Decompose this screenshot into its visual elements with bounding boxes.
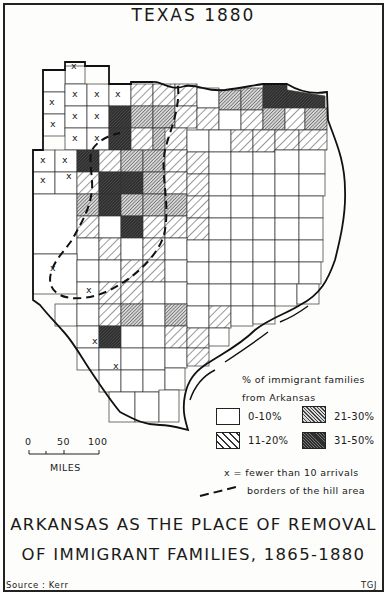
hill-border-legend-line — [200, 486, 240, 496]
legend-label-31-50: 31-50% — [334, 435, 374, 446]
legend-swatch-21-30 — [302, 406, 326, 423]
scale-tick-100: 100 — [88, 436, 108, 447]
main-title-line1: ARKANSAS AS THE PLACE OF REMOVAL — [0, 515, 387, 534]
x-marker: x — [40, 154, 46, 165]
legend-swatch-31-50 — [302, 432, 326, 449]
x-marker: x — [94, 132, 100, 143]
scale-unit: MILES — [50, 462, 81, 473]
x-marker: x — [92, 335, 98, 346]
south-counties — [55, 304, 275, 422]
x-marker: x — [72, 132, 78, 143]
legend-label-0-10: 0-10% — [248, 411, 282, 422]
north-counties — [165, 84, 327, 174]
x-marker: x — [72, 110, 78, 121]
legend-title-line2: from Arkansas — [242, 392, 316, 403]
x-marker: x — [50, 262, 56, 273]
scale-tick-0: 0 — [25, 436, 32, 447]
texas-map — [0, 0, 387, 596]
legend-swatch-11-20 — [216, 432, 240, 449]
x-marker: x — [40, 174, 46, 185]
x-marker: x — [94, 110, 100, 121]
x-marker: x — [113, 360, 119, 371]
x-marker: x — [62, 154, 68, 165]
legend-label-21-30: 21-30% — [334, 411, 374, 422]
main-title-line2: OF IMMIGRANT FAMILIES, 1865-1880 — [0, 545, 387, 564]
legend-x-note: x = fewer than 10 arrivals — [224, 467, 359, 478]
x-marker: x — [66, 170, 72, 181]
x-marker: x — [94, 88, 100, 99]
x-marker: x — [115, 88, 121, 99]
x-marker: x — [50, 118, 56, 129]
panhandle-counties — [33, 66, 175, 194]
x-marker: x — [72, 88, 78, 99]
scale-bar — [29, 450, 99, 454]
legend-label-11-20: 11-20% — [248, 435, 288, 446]
x-marker: x — [86, 284, 92, 295]
x-marker: x — [49, 96, 55, 107]
author-credit: TGJ — [361, 580, 377, 590]
legend-swatch-0-10 — [216, 408, 240, 425]
legend-border-note: borders of the hill area — [247, 485, 365, 496]
scale-tick-50: 50 — [57, 436, 70, 447]
legend-title-line1: % of immigrant families — [242, 374, 365, 385]
source-credit: Source : Kerr — [6, 580, 68, 590]
x-marker: x — [71, 60, 77, 71]
